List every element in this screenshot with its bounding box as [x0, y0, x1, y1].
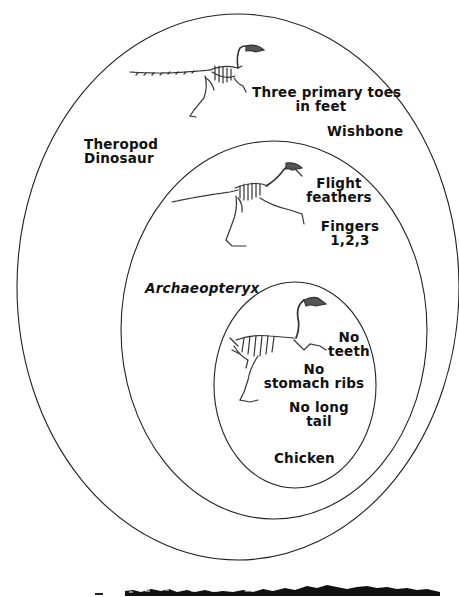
trait-line1: No — [262, 362, 366, 376]
trait-line2: stomach ribs — [262, 376, 366, 390]
trait-no-long-tail: No long tail — [284, 400, 354, 428]
trait-line1: Fingers — [320, 219, 380, 233]
theropod-skeleton-icon — [130, 45, 264, 117]
trait-wishbone: Wishbone — [327, 124, 403, 138]
trait-line2: tail — [284, 414, 354, 428]
trait-line1: No — [326, 330, 372, 344]
trait-no-stomach-ribs: No stomach ribs — [262, 362, 366, 390]
group-label-line1: Theropod — [84, 137, 158, 151]
trait-flight-feathers: Flight feathers — [306, 176, 372, 204]
trait-three-primary-toes: Three primary toes in feet — [252, 85, 390, 113]
scan-bleed-strip — [95, 584, 455, 597]
trait-line1: No long — [284, 400, 354, 414]
trait-line2: feathers — [306, 190, 372, 204]
trait-line1: Three primary toes — [252, 85, 390, 99]
trait-fingers: Fingers 1,2,3 — [320, 219, 380, 247]
group-label-line1: Archaeopteryx — [145, 281, 259, 295]
group-label-chicken: Chicken — [274, 451, 335, 465]
archaeopteryx-skeleton-icon — [172, 163, 304, 246]
trait-line2: 1,2,3 — [320, 233, 380, 247]
trait-line2: in feet — [252, 99, 390, 113]
group-label-line1: Chicken — [274, 451, 335, 465]
trait-line1: Wishbone — [327, 124, 403, 138]
group-label-theropod: Theropod Dinosaur — [84, 137, 158, 165]
group-label-archaeopteryx: Archaeopteryx — [145, 281, 259, 295]
trait-line2: teeth — [326, 344, 372, 358]
trait-line1: Flight — [306, 176, 372, 190]
group-label-line2: Dinosaur — [84, 151, 158, 165]
trait-no-teeth: No teeth — [326, 330, 372, 358]
